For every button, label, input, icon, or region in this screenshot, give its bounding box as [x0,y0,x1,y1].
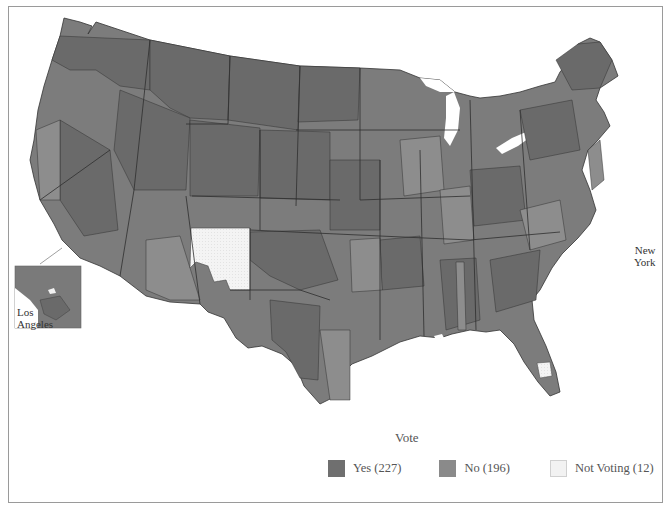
new-york-label: New York [634,244,656,268]
legend-label-not-voting: Not Voting (12) [575,461,654,476]
contiguous-us [30,18,618,404]
legend-item-no: No (196) [439,460,509,477]
new-york-label-line1: New [634,244,656,256]
legend-item-yes: Yes (227) [328,460,401,477]
us-district-map [0,0,670,512]
no-swatch [439,460,456,477]
legend-item-not-voting: Not Voting (12) [550,460,654,477]
legend-label-yes: Yes (227) [353,461,401,476]
legend-label-no: No (196) [464,461,509,476]
legend-title: Vote [395,430,419,446]
not-voting-swatch [550,460,567,477]
la-leader-line [40,248,62,264]
los-angeles-label: Los Angeles [17,306,53,330]
yes-swatch [328,460,345,477]
los-angeles-label-line2: Angeles [17,318,53,330]
legend: Yes (227) No (196) Not Voting (12) [328,460,670,477]
new-york-label-line2: York [634,256,656,268]
los-angeles-label-line1: Los [17,306,53,318]
